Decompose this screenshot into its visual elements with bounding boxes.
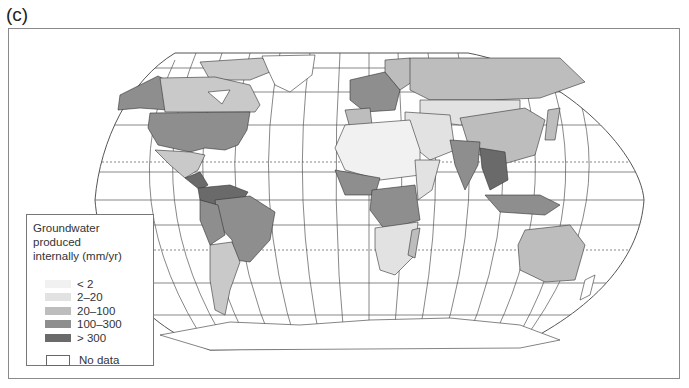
legend-swatch	[45, 293, 71, 301]
legend-label: 2–20	[77, 291, 103, 303]
legend-swatch	[45, 280, 71, 288]
map-legend: Groundwater produced internally (mm/yr) …	[26, 214, 154, 366]
legend-swatch	[45, 334, 71, 342]
legend-item-no-data: No data	[33, 354, 147, 368]
legend-title-line2: internally (mm/yr)	[33, 249, 147, 263]
legend-label: 100–300	[77, 318, 122, 330]
legend-label: 20–100	[77, 305, 115, 317]
legend-item-20-100: 20–100	[33, 304, 147, 318]
legend-label: > 300	[77, 332, 106, 344]
legend-item-gt300: > 300	[33, 331, 147, 345]
legend-title-line1: Groundwater produced	[33, 221, 147, 249]
legend-swatch	[45, 320, 71, 328]
legend-item-100-300: 100–300	[33, 318, 147, 332]
legend-swatch	[45, 307, 71, 315]
legend-swatch	[46, 355, 70, 366]
legend-label: < 2	[77, 278, 93, 290]
legend-item-lt2: < 2	[33, 277, 147, 291]
legend-item-2-20: 2–20	[33, 291, 147, 305]
legend-label: No data	[79, 354, 119, 366]
